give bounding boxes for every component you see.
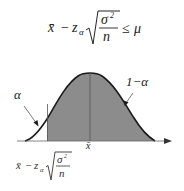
sigma-exponent: 2 — [110, 11, 114, 20]
sigma-symbol: σ — [57, 153, 63, 165]
x-axis-arrowhead — [164, 138, 172, 144]
alpha-label: α — [14, 87, 21, 103]
z-symbol: z — [71, 20, 78, 35]
mu-symbol: μ — [133, 21, 141, 36]
minus-sign: − — [60, 20, 69, 35]
confidence-bound-inequality: x̄ − z α σ 2 n ≤ μ — [48, 8, 158, 54]
sigma-exponent: 2 — [64, 153, 67, 159]
n-symbol: n — [59, 167, 65, 179]
lower-bound-formula: x̄ − z α σ 2 n — [16, 150, 86, 188]
mean-axis-label: x̄ — [86, 140, 90, 151]
leq-sign: ≤ — [122, 21, 130, 36]
z-subscript: α — [40, 166, 44, 174]
mean-symbol: x̄ — [47, 20, 55, 35]
z-symbol: z — [33, 159, 39, 171]
minus-sign: − — [25, 159, 32, 171]
one-minus-alpha-label: 1−α — [126, 74, 148, 90]
z-subscript: α — [79, 27, 84, 37]
one-minus-alpha-pointer — [126, 93, 133, 103]
inequality-formula-svg: x̄ − z α σ 2 n ≤ μ — [48, 8, 158, 50]
mean-symbol: x̄ — [15, 159, 21, 171]
lower-bound-formula-svg: x̄ − z α σ 2 n — [16, 150, 86, 186]
n-symbol: n — [103, 29, 110, 44]
alpha-pointer-head — [34, 120, 39, 127]
alpha-pointer — [24, 106, 37, 124]
sigma-symbol: σ — [101, 12, 109, 27]
